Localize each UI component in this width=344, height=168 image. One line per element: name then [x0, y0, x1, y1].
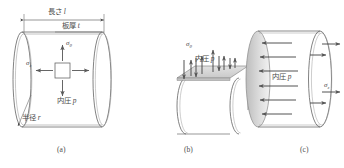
half-cyl-right-outer-arc: [230, 78, 239, 134]
cut-section-inner-ellipse: [311, 33, 331, 125]
pressure-label-c: 内圧 p: [272, 73, 292, 80]
pressure-label-a: 内圧 p: [57, 97, 77, 104]
caption-c: (c): [300, 146, 308, 154]
stress-element-square: [55, 63, 70, 78]
pressure-label-b: 内圧 p: [195, 55, 215, 62]
cylinder-left-inner-ellipse: [15, 34, 31, 125]
cut-plane-thickness-edge: [177, 78, 230, 81]
cylinder-right-inner-ellipse: [95, 34, 111, 126]
caption-b: (b): [184, 146, 193, 154]
cylinder-right-outer-ellipse: [93, 32, 111, 127]
axial-stress-arrows-outward-group: [310, 44, 340, 103]
end-cap-shaded-ellipse: [246, 31, 270, 127]
radius-label-a: 半径 r: [22, 114, 41, 121]
axial-stress-label-a: σz: [26, 60, 31, 68]
pressure-vessel-figure: [0, 0, 344, 168]
caption-a: (a): [57, 146, 65, 154]
half-cyl-left-outer-arc: [177, 78, 186, 134]
hoop-stress-label-b: σθ: [186, 41, 192, 49]
half-cyl-right-inner-arc: [233, 79, 241, 133]
cut-plane-surface: [177, 66, 248, 78]
length-label: 長さ l: [48, 8, 66, 15]
panel-a-cylinder: [13, 14, 112, 127]
half-cyl-left-inner-arc: [180, 79, 188, 133]
axial-stress-label-c: σz: [324, 82, 329, 90]
hoop-stress-label-a: σθ: [66, 40, 72, 48]
cut-section-outer-ellipse: [309, 31, 332, 127]
thickness-label: 板厚 t: [62, 22, 80, 29]
panel-c-end-cap: [246, 31, 340, 127]
